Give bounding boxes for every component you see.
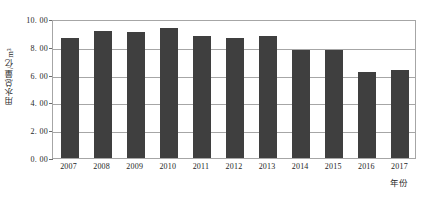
bar: [358, 72, 376, 158]
plot-area: [52, 20, 416, 159]
x-tick-label: 2011: [193, 162, 210, 171]
x-tick-label: 2010: [159, 162, 176, 171]
x-axis-tick-labels: 2007200820092010201120122013201420152016…: [52, 160, 416, 176]
x-tick-label: 2017: [391, 162, 408, 171]
y-axis-tick-labels: 0. 002. 004. 006. 008. 0010. 00: [16, 20, 50, 159]
x-tick-label: 2015: [325, 162, 342, 171]
bars-layer: [53, 21, 415, 158]
x-tick-label: 2009: [126, 162, 143, 171]
y-tick-label: 4. 00: [31, 99, 49, 108]
bar: [292, 50, 310, 158]
y-tick-label: 2. 00: [31, 127, 49, 136]
bar: [61, 38, 79, 158]
bar: [259, 36, 277, 158]
bar: [325, 50, 343, 158]
y-tick-label: 6. 00: [31, 71, 49, 80]
x-tick-label: 2014: [292, 162, 309, 171]
bar: [127, 32, 145, 158]
bar: [94, 31, 112, 158]
bar: [193, 36, 211, 158]
x-tick-label: 2013: [259, 162, 276, 171]
x-tick-label: 2016: [358, 162, 375, 171]
bar: [391, 70, 409, 158]
bar-chart: 用水总量/亿m³ 0. 002. 004. 006. 008. 0010. 00…: [0, 0, 424, 213]
x-tick-label: 2008: [93, 162, 110, 171]
x-tick-label: 2007: [60, 162, 77, 171]
x-axis-title: 年份: [390, 176, 408, 188]
bar: [226, 38, 244, 158]
y-tick-label: 10. 00: [26, 16, 48, 25]
y-tick-label: 0. 00: [31, 155, 49, 164]
bar: [160, 28, 178, 158]
x-tick-label: 2012: [226, 162, 243, 171]
y-tick-label: 8. 00: [31, 43, 49, 52]
